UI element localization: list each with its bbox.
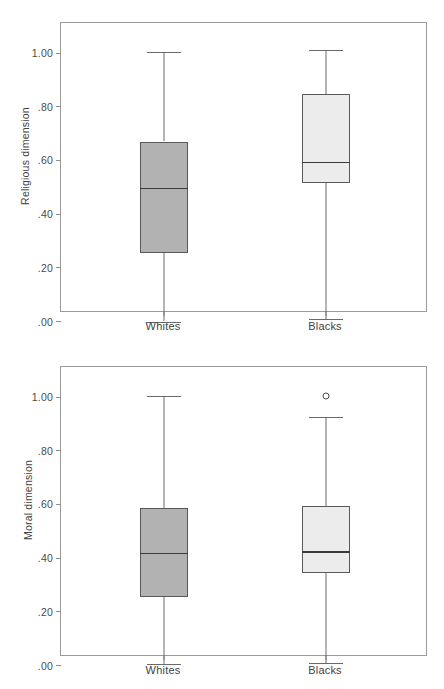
y-axis-title-religious: Religious dimension — [19, 96, 31, 216]
plot-area-moral: 1.00 .80 .60 .40 .20 .00 — [60, 366, 427, 656]
y-tick-religious-5: .00 — [38, 316, 61, 328]
whisker-upper-whites-moral — [164, 396, 165, 509]
y-tick-label: .40 — [38, 552, 56, 564]
y-tick-moral-5: .00 — [38, 660, 61, 672]
y-tick-mark-icon — [56, 267, 61, 268]
moral-dimension-boxplot-figure: Moral dimension 1.00 .80 .60 .40 .20 .00 — [0, 344, 444, 689]
median-line-whites-moral — [140, 553, 188, 555]
x-tick-label-whites-moral: Whites — [146, 664, 181, 676]
y-tick-label: 1.00 — [32, 391, 56, 403]
plot-area-religious: 1.00 .80 .60 .40 .20 .00 — [60, 22, 427, 312]
y-tick-moral-4: .20 — [38, 606, 61, 618]
y-tick-label: .00 — [38, 316, 56, 328]
whisker-upper-blacks-moral — [326, 417, 327, 506]
y-tick-moral-0: 1.00 — [32, 391, 61, 403]
y-tick-mark-icon — [56, 53, 61, 54]
whisker-lower-blacks-moral — [326, 573, 327, 663]
y-tick-label: .80 — [38, 445, 56, 457]
x-tick-label-whites-religious: Whites — [146, 320, 181, 332]
whisker-upper-whites-religious — [164, 52, 165, 142]
y-tick-mark-icon — [56, 160, 61, 161]
box-blacks-moral — [302, 506, 350, 573]
y-tick-label: .40 — [38, 208, 56, 220]
y-tick-mark-icon — [56, 214, 61, 215]
y-tick-moral-2: .60 — [38, 498, 61, 510]
y-tick-label: .60 — [38, 154, 56, 166]
y-tick-mark-icon — [56, 106, 61, 107]
y-tick-label: .00 — [38, 660, 56, 672]
whisker-cap-upper-blacks-religious — [309, 50, 343, 51]
y-tick-mark-icon — [56, 504, 61, 505]
whisker-cap-upper-whites-moral — [147, 396, 181, 397]
y-tick-religious-0: 1.00 — [32, 47, 61, 59]
y-axis-title-moral: Moral dimension — [22, 440, 34, 560]
y-tick-mark-icon — [56, 558, 61, 559]
y-tick-religious-4: .20 — [38, 262, 61, 274]
y-tick-moral-3: .40 — [38, 552, 61, 564]
y-tick-religious-3: .40 — [38, 208, 61, 220]
x-tick-label-blacks-religious: Blacks — [308, 320, 342, 332]
whisker-cap-upper-blacks-moral — [309, 417, 343, 418]
median-line-blacks-moral — [302, 551, 350, 553]
y-tick-mark-icon — [56, 665, 61, 666]
y-tick-mark-icon — [56, 321, 61, 322]
whisker-lower-whites-religious — [164, 253, 165, 322]
box-whites-religious — [140, 142, 188, 254]
y-tick-mark-icon — [56, 450, 61, 451]
whisker-lower-whites-moral — [164, 597, 165, 664]
median-line-blacks-religious — [302, 162, 350, 164]
y-tick-label: 1.00 — [32, 47, 56, 59]
y-tick-label: .20 — [38, 262, 56, 274]
whisker-cap-upper-whites-religious — [147, 52, 181, 53]
outlier-point-blacks-moral — [323, 392, 330, 399]
y-tick-religious-1: .80 — [38, 101, 61, 113]
y-tick-religious-2: .60 — [38, 154, 61, 166]
y-tick-mark-icon — [56, 397, 61, 398]
x-tick-label-blacks-moral: Blacks — [308, 664, 342, 676]
y-tick-label: .60 — [38, 498, 56, 510]
box-blacks-religious — [302, 94, 350, 183]
religious-dimension-boxplot-figure: Religious dimension 1.00 .80 .60 .40 .20… — [0, 0, 444, 345]
y-tick-mark-icon — [56, 611, 61, 612]
y-tick-label: .20 — [38, 606, 56, 618]
median-line-whites-religious — [140, 188, 188, 190]
whisker-upper-blacks-religious — [326, 50, 327, 94]
y-tick-moral-1: .80 — [38, 445, 61, 457]
y-tick-label: .80 — [38, 101, 56, 113]
whisker-lower-blacks-religious — [326, 183, 327, 319]
